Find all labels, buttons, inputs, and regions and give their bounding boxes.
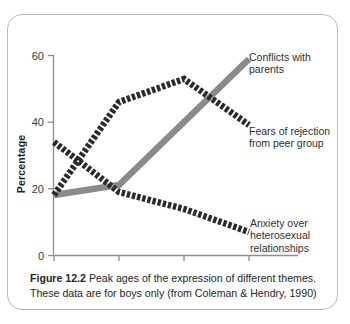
x-tick-label-11: 11 xyxy=(48,262,59,263)
series-label-conflicts-with-parents: Conflicts with parents xyxy=(249,51,311,76)
figure-caption-line-1: Peak ages of the expression of different… xyxy=(89,272,316,284)
y-tick-label-40: 40 xyxy=(32,116,44,128)
y-tick-label-60: 60 xyxy=(32,50,44,62)
x-tick-label-15: 15 xyxy=(178,262,190,263)
y-axis-title: Percentage xyxy=(15,129,27,199)
figure-caption-line-2: These data are for boys only (from Colem… xyxy=(30,286,326,301)
x-tick-label-13: 13 xyxy=(113,262,125,263)
figure-card: 0 20 40 60 11 13 15 17 Percentage xyxy=(7,14,338,310)
chart-plot-area: 0 20 40 60 11 13 15 17 Percentage xyxy=(8,15,339,263)
series-line-conflicts-with-parents xyxy=(54,59,249,195)
x-axis-ticks xyxy=(54,256,249,262)
series-line-fears-of-rejection xyxy=(54,79,249,195)
series-label-anxiety-over-heterosexual-relationships: Anxiety over heterosexual relationships xyxy=(250,217,310,254)
y-tick-label-20: 20 xyxy=(32,183,44,195)
figure-caption: Figure 12.2 Peak ages of the expression … xyxy=(30,271,326,300)
y-axis-ticks xyxy=(48,56,54,256)
series-label-fears-of-rejection: Fears of rejection from peer group xyxy=(249,125,330,150)
y-tick-label-0: 0 xyxy=(38,250,44,262)
figure-caption-label: Figure 12.2 xyxy=(30,272,86,284)
x-tick-label-17: 17 xyxy=(243,262,255,263)
